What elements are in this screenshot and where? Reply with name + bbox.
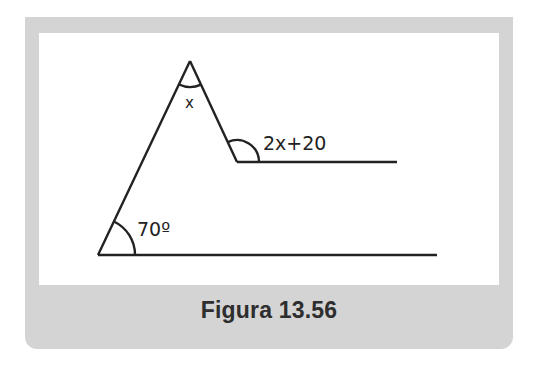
base-angle-label: 70º: [137, 218, 170, 240]
apex-angle-arc: [179, 85, 201, 87]
base-angle-arc: [114, 222, 135, 256]
geometry-diagram: x 2x+20 70º: [0, 0, 538, 365]
right-side-segment: [190, 61, 237, 162]
inner-angle-label: 2x+20: [263, 132, 326, 154]
apex-angle-label: x: [185, 94, 194, 112]
